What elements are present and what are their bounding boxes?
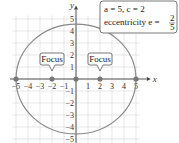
focus-callout: Focus <box>88 53 112 71</box>
y-axis-arrow-icon <box>74 5 78 9</box>
y-tick-label: −2 <box>65 99 74 108</box>
y-tick-label: 3 <box>70 39 74 48</box>
info-line-1: a = 5, c = 2 <box>104 4 145 14</box>
x-tick-label: −2 <box>48 82 57 91</box>
vertex-right-point <box>133 76 138 81</box>
info-box: a = 5, c = 2 eccentricity e = 2 5 <box>100 1 177 33</box>
x-tick-label: 3 <box>110 82 114 91</box>
focus-label: Focus <box>41 54 63 64</box>
y-tick-label: 1 <box>70 63 74 72</box>
ellipse-plot: xy −5−4−3−2−112345−5−4−3−2−112345 FocusF… <box>0 0 179 143</box>
x-tick-label: 1 <box>86 82 90 91</box>
x-tick-label: −4 <box>24 82 33 91</box>
x-tick-label: 4 <box>122 82 126 91</box>
frac-denominator: 5 <box>170 22 175 32</box>
y-tick-label: −5 <box>65 135 74 143</box>
y-tick-label: 4 <box>70 27 74 36</box>
y-tick-label: 2 <box>70 51 74 60</box>
focus-left-point <box>49 76 54 81</box>
focus-label: Focus <box>89 54 111 64</box>
x-axis-label: x <box>152 74 157 84</box>
x-tick-label: −3 <box>36 82 45 91</box>
x-tick-label: 2 <box>98 82 102 91</box>
focus-right-point <box>97 76 102 81</box>
y-tick-label: −1 <box>65 87 74 96</box>
vertex-left-point <box>13 76 18 81</box>
y-tick-label: −4 <box>65 123 74 132</box>
focus-callout: Focus <box>40 53 64 71</box>
info-line-2: eccentricity e = <box>104 17 160 27</box>
x-axis-arrow-icon <box>147 77 151 81</box>
y-tick-label: −3 <box>65 111 74 120</box>
center-point <box>73 76 78 81</box>
y-tick-label: 5 <box>70 15 74 24</box>
y-axis-label: y <box>69 0 74 10</box>
